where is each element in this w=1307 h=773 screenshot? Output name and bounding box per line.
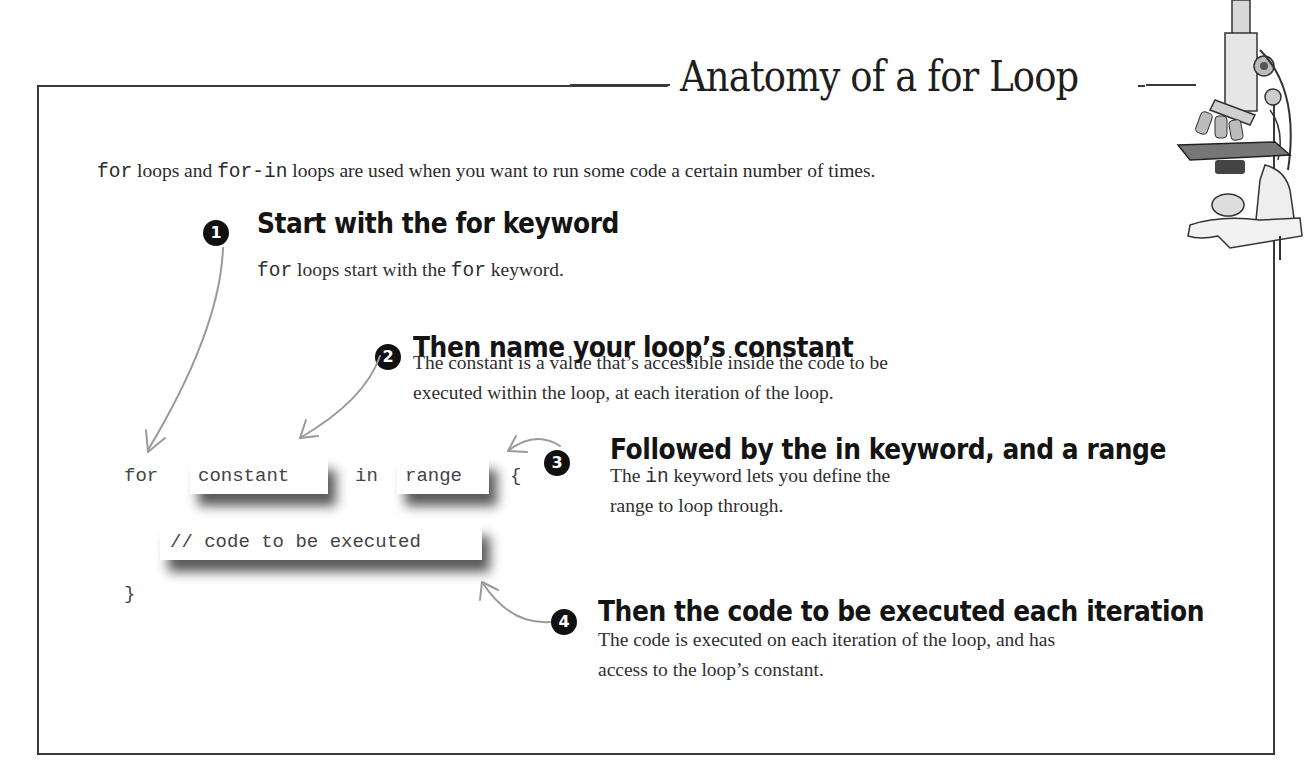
arrow-step-3	[508, 439, 560, 451]
annotation-arrows	[0, 0, 1307, 773]
arrow-step-1	[148, 248, 223, 450]
arrow-step-2	[300, 356, 380, 438]
